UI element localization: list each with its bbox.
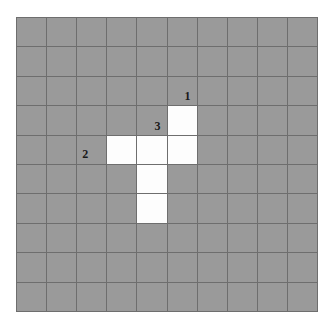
grid-cell-empty[interactable] <box>107 253 136 281</box>
grid-cell-empty[interactable] <box>288 18 317 46</box>
grid-cell-filled[interactable] <box>137 136 166 164</box>
grid-cell-empty[interactable] <box>77 194 106 222</box>
grid-cell-empty[interactable] <box>17 165 46 193</box>
grid-cell-empty[interactable] <box>47 253 76 281</box>
grid-cell-empty[interactable] <box>17 136 46 164</box>
grid-cell-empty[interactable] <box>198 77 227 105</box>
grid-cell-empty[interactable] <box>168 165 197 193</box>
grid-cell-filled[interactable] <box>107 136 136 164</box>
grid-cell-empty[interactable] <box>77 224 106 252</box>
grid-cell-empty[interactable] <box>228 224 257 252</box>
grid-cell-empty[interactable] <box>137 77 166 105</box>
grid-cell-empty[interactable] <box>198 253 227 281</box>
grid-cell-empty[interactable] <box>198 136 227 164</box>
grid-cell-empty[interactable] <box>288 136 317 164</box>
grid-cell-empty[interactable] <box>228 77 257 105</box>
grid-cell-empty[interactable] <box>137 253 166 281</box>
grid-cell-empty[interactable]: 3 <box>137 106 166 134</box>
grid-cell-empty[interactable] <box>198 18 227 46</box>
grid-cell-empty[interactable] <box>288 77 317 105</box>
grid-cell-empty[interactable] <box>258 283 287 311</box>
grid-cell-empty[interactable] <box>17 253 46 281</box>
grid-cell-empty[interactable] <box>288 283 317 311</box>
grid-cell-empty[interactable] <box>228 136 257 164</box>
grid-cell-empty[interactable] <box>47 47 76 75</box>
grid-cell-empty[interactable] <box>17 106 46 134</box>
grid-cell-empty[interactable] <box>198 283 227 311</box>
grid-cell-empty[interactable] <box>168 224 197 252</box>
grid-cell-empty[interactable] <box>137 47 166 75</box>
grid-cell-empty[interactable] <box>228 253 257 281</box>
grid-cell-empty[interactable] <box>47 165 76 193</box>
grid-cell-empty[interactable] <box>258 224 287 252</box>
grid-cell-empty[interactable]: 2 <box>77 136 106 164</box>
grid-cell-empty[interactable] <box>47 224 76 252</box>
grid-cell-empty[interactable] <box>228 47 257 75</box>
grid-cell-empty[interactable] <box>168 47 197 75</box>
grid-cell-empty[interactable] <box>77 253 106 281</box>
grid-cell-empty[interactable] <box>168 194 197 222</box>
grid-cell-empty[interactable] <box>228 165 257 193</box>
grid-cell-empty[interactable] <box>168 283 197 311</box>
grid-cell-empty[interactable] <box>258 18 287 46</box>
grid-cell-empty[interactable] <box>258 106 287 134</box>
grid-cell-empty[interactable] <box>17 224 46 252</box>
grid-cell-empty[interactable] <box>137 283 166 311</box>
grid-cell-empty[interactable] <box>288 194 317 222</box>
grid-cell-empty[interactable] <box>137 224 166 252</box>
grid-cell-empty[interactable] <box>107 106 136 134</box>
grid-cell-empty[interactable] <box>168 18 197 46</box>
grid-cell-empty[interactable] <box>47 18 76 46</box>
grid-cell-empty[interactable] <box>228 106 257 134</box>
grid-cell-empty[interactable] <box>228 283 257 311</box>
grid-cell-empty[interactable] <box>228 194 257 222</box>
grid-cell-empty[interactable] <box>17 194 46 222</box>
grid-cell-empty[interactable] <box>288 47 317 75</box>
grid-cell-empty[interactable] <box>288 224 317 252</box>
grid-cell-empty[interactable] <box>258 194 287 222</box>
grid-cell-empty[interactable] <box>47 136 76 164</box>
grid-cell-empty[interactable] <box>198 47 227 75</box>
grid-cell-empty[interactable] <box>198 165 227 193</box>
grid-cell-empty[interactable] <box>47 77 76 105</box>
grid-cell-empty[interactable] <box>77 283 106 311</box>
grid-cell-filled[interactable] <box>137 165 166 193</box>
grid-cell-empty[interactable] <box>77 106 106 134</box>
grid-cell-empty[interactable] <box>47 283 76 311</box>
grid-cell-filled[interactable] <box>168 136 197 164</box>
grid-cell-empty[interactable] <box>107 18 136 46</box>
grid-cell-empty[interactable] <box>228 18 257 46</box>
grid-cell-empty[interactable] <box>77 77 106 105</box>
grid-cell-empty[interactable] <box>107 47 136 75</box>
grid-cell-filled[interactable] <box>168 106 197 134</box>
grid-cell-empty[interactable] <box>47 106 76 134</box>
grid-cell-empty[interactable] <box>107 283 136 311</box>
grid-cell-empty[interactable] <box>17 18 46 46</box>
grid-cell-empty[interactable] <box>47 194 76 222</box>
grid-cell-empty[interactable] <box>107 165 136 193</box>
grid-cell-empty[interactable] <box>17 283 46 311</box>
pixel-grid[interactable]: 132 <box>16 17 318 312</box>
grid-cell-empty[interactable] <box>77 18 106 46</box>
grid-cell-filled[interactable] <box>137 194 166 222</box>
grid-cell-empty[interactable] <box>107 77 136 105</box>
grid-cell-empty[interactable] <box>17 47 46 75</box>
grid-cell-empty[interactable] <box>77 165 106 193</box>
grid-cell-empty[interactable] <box>258 136 287 164</box>
grid-cell-empty[interactable] <box>258 77 287 105</box>
grid-cell-empty[interactable] <box>17 77 46 105</box>
grid-cell-empty[interactable] <box>258 165 287 193</box>
grid-cell-empty[interactable] <box>198 194 227 222</box>
grid-cell-empty[interactable] <box>288 106 317 134</box>
grid-cell-empty[interactable] <box>258 47 287 75</box>
grid-cell-empty[interactable] <box>107 194 136 222</box>
grid-cell-empty[interactable] <box>288 165 317 193</box>
grid-cell-empty[interactable] <box>288 253 317 281</box>
grid-cell-empty[interactable] <box>77 47 106 75</box>
grid-cell-empty[interactable] <box>107 224 136 252</box>
grid-cell-empty[interactable] <box>168 253 197 281</box>
grid-cell-empty[interactable] <box>137 18 166 46</box>
grid-cell-empty[interactable]: 1 <box>168 77 197 105</box>
grid-cell-empty[interactable] <box>198 106 227 134</box>
grid-cell-empty[interactable] <box>258 253 287 281</box>
